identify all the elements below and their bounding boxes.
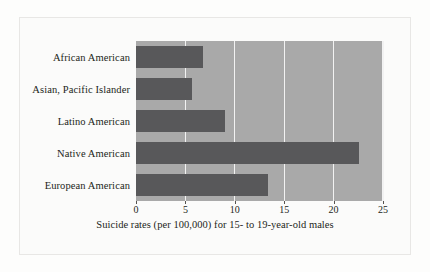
x-tick-label-20: 20 xyxy=(329,204,339,215)
category-label-asian-pacific-islander: Asian, Pacific Islander xyxy=(32,84,134,95)
bar-band xyxy=(136,105,383,137)
bar-african-american xyxy=(136,46,203,68)
category-label-european-american: European American xyxy=(45,180,134,191)
bar-band xyxy=(136,41,383,73)
bar-latino-american xyxy=(136,110,225,132)
category-axis: African American Asian, Pacific Islander… xyxy=(26,41,134,201)
category-row: African American xyxy=(26,41,134,73)
x-tick-label-25: 25 xyxy=(378,204,388,215)
x-axis-title: Suicide rates (per 100,000) for 15- to 1… xyxy=(19,219,411,230)
figure: African American Asian, Pacific Islander… xyxy=(0,0,430,272)
category-label-latino-american: Latino American xyxy=(58,116,134,127)
x-tick-label-10: 10 xyxy=(230,204,240,215)
bar-band xyxy=(136,137,383,169)
category-label-african-american: African American xyxy=(53,52,134,63)
category-row: Asian, Pacific Islander xyxy=(26,73,134,105)
x-tick-label-0: 0 xyxy=(134,204,139,215)
category-label-native-american: Native American xyxy=(57,148,134,159)
category-row: Native American xyxy=(26,137,134,169)
bar-band xyxy=(136,169,383,201)
bar-native-american xyxy=(136,142,359,164)
plot-area xyxy=(136,41,383,201)
x-tick-label-5: 5 xyxy=(183,204,188,215)
bar-asian-pacific-islander xyxy=(136,78,192,100)
bar-band xyxy=(136,73,383,105)
category-row: Latino American xyxy=(26,105,134,137)
x-tick-label-15: 15 xyxy=(279,204,289,215)
x-axis: 0510152025 xyxy=(136,201,383,219)
bar-european-american xyxy=(136,174,268,196)
category-row: European American xyxy=(26,169,134,201)
